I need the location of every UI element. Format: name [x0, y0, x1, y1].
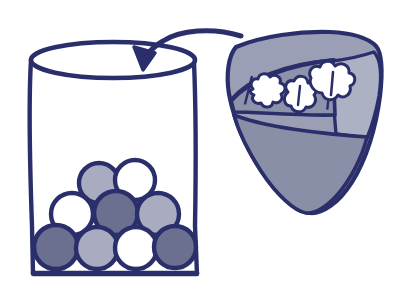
bag-group	[29, 42, 197, 274]
illustration-svg: Pouring seeds from a scoop into a bag	[0, 0, 399, 302]
disc-r3-c3	[115, 227, 157, 269]
disc-r3-c4	[154, 226, 196, 268]
kernel-left-icon	[250, 74, 285, 107]
disc-r3-c1	[34, 225, 78, 269]
illustration-canvas: Pouring seeds from a scoop into a bag	[0, 0, 399, 302]
bag-rim	[31, 42, 195, 78]
disc-r3-c2	[76, 227, 118, 269]
scoop-group	[228, 32, 382, 213]
